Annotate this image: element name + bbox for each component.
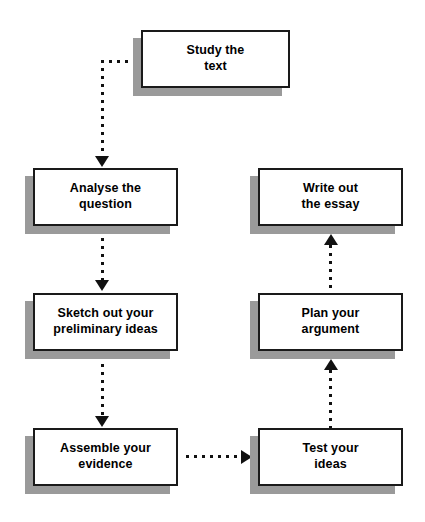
arrowhead-study-to-analyse — [95, 156, 109, 167]
arrowhead-plan-to-write — [324, 234, 338, 245]
node-study-the-text[interactable]: Study the text — [141, 30, 290, 88]
connector-study-to-analyse-vertical — [101, 60, 104, 160]
connector-test-to-plan-vertical — [329, 370, 332, 428]
node-plan-your-argument[interactable]: Plan your argument — [258, 293, 403, 351]
connector-analyse-to-sketch-vertical — [101, 230, 104, 280]
node-label-write-out-the-essay: Write out the essay — [298, 181, 364, 212]
connector-plan-to-write-vertical — [329, 245, 332, 293]
node-face: Analyse the question — [33, 168, 178, 226]
flowchart-canvas: Study the text Analyse the question Writ… — [0, 0, 425, 522]
node-label-plan-your-argument: Plan your argument — [298, 306, 364, 337]
node-face: Test your ideas — [258, 428, 403, 486]
node-face: Sketch out your preliminary ideas — [33, 293, 178, 351]
node-analyse-the-question[interactable]: Analyse the question — [33, 168, 178, 226]
node-sketch-out-your-preliminary-ideas[interactable]: Sketch out your preliminary ideas — [33, 293, 178, 351]
node-label-assemble-your-evidence: Assemble your evidence — [56, 441, 155, 472]
connector-assemble-to-test-horizontal — [186, 455, 241, 458]
node-assemble-your-evidence[interactable]: Assemble your evidence — [33, 428, 178, 486]
node-face: Study the text — [141, 30, 290, 88]
connector-sketch-to-assemble-vertical — [101, 356, 104, 416]
node-label-study-the-text: Study the text — [183, 43, 249, 74]
node-write-out-the-essay[interactable]: Write out the essay — [258, 168, 403, 226]
node-label-test-your-ideas: Test your ideas — [298, 441, 362, 472]
arrowhead-analyse-to-sketch — [95, 280, 109, 291]
arrowhead-test-to-plan — [324, 359, 338, 370]
arrowhead-sketch-to-assemble — [95, 416, 109, 427]
node-face: Assemble your evidence — [33, 428, 178, 486]
node-label-analyse-the-question: Analyse the question — [66, 181, 145, 212]
node-test-your-ideas[interactable]: Test your ideas — [258, 428, 403, 486]
node-face: Write out the essay — [258, 168, 403, 226]
node-label-sketch-out-your-preliminary-ideas: Sketch out your preliminary ideas — [49, 306, 162, 337]
node-face: Plan your argument — [258, 293, 403, 351]
